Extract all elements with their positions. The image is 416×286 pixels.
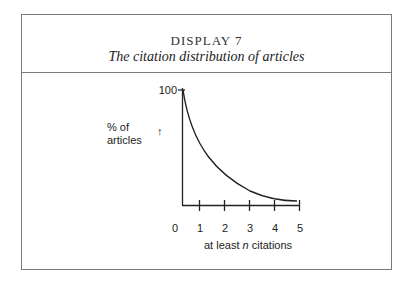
x-tick-label-3: 3: [247, 222, 253, 234]
x-tick-label-5: 5: [297, 222, 303, 234]
y-tick-label-100: 100: [159, 84, 177, 96]
up-arrow-icon: ↑: [157, 125, 163, 137]
x-tick-label-2: 2: [222, 222, 228, 234]
y-label-line1: % of: [107, 121, 130, 133]
chart: 100 % of articles ↑ 0 1 2 3 4 5 at least…: [0, 0, 416, 286]
x-axis-label: at least n citations: [204, 239, 293, 251]
distribution-curve: [183, 90, 297, 201]
x-tick-label-4: 4: [272, 222, 278, 234]
x-tick-label-0: 0: [172, 222, 178, 234]
x-tick-label-1: 1: [197, 222, 203, 234]
y-label-line2: articles: [107, 134, 142, 146]
